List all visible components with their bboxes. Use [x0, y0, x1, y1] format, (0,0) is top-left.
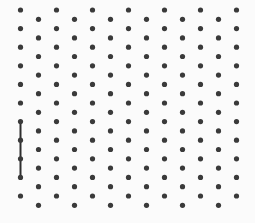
- grid-dot[interactable]: [72, 166, 77, 171]
- grid-dot[interactable]: [54, 138, 59, 143]
- grid-dot[interactable]: [198, 156, 203, 161]
- grid-dot[interactable]: [126, 156, 131, 161]
- grid-dot[interactable]: [126, 119, 131, 124]
- grid-dot[interactable]: [90, 119, 95, 124]
- grid-dot[interactable]: [126, 100, 131, 105]
- grid-dot[interactable]: [144, 110, 149, 115]
- grid-dot[interactable]: [90, 7, 95, 12]
- grid-dot[interactable]: [180, 17, 185, 22]
- grid-dot[interactable]: [144, 203, 149, 208]
- grid-dot[interactable]: [108, 54, 113, 59]
- grid-dot[interactable]: [198, 63, 203, 68]
- grid-dot[interactable]: [126, 63, 131, 68]
- grid-dot[interactable]: [216, 166, 221, 171]
- grid-dot[interactable]: [90, 26, 95, 31]
- grid-dot[interactable]: [36, 35, 41, 40]
- grid-dot[interactable]: [216, 73, 221, 78]
- grid-dot[interactable]: [108, 203, 113, 208]
- grid-dot[interactable]: [90, 100, 95, 105]
- grid-dot[interactable]: [198, 7, 203, 12]
- grid-dot[interactable]: [144, 17, 149, 22]
- grid-dot[interactable]: [72, 184, 77, 189]
- grid-dot[interactable]: [54, 63, 59, 68]
- grid-dot[interactable]: [126, 26, 131, 31]
- grid-dot[interactable]: [234, 175, 239, 180]
- grid-dot[interactable]: [108, 128, 113, 133]
- grid-dot[interactable]: [180, 166, 185, 171]
- grid-dot[interactable]: [162, 7, 167, 12]
- grid-dot[interactable]: [72, 73, 77, 78]
- grid-dot[interactable]: [198, 175, 203, 180]
- grid-dot[interactable]: [36, 166, 41, 171]
- grid-dot[interactable]: [90, 138, 95, 143]
- grid-dot[interactable]: [144, 54, 149, 59]
- grid-dot[interactable]: [216, 110, 221, 115]
- grid-dot[interactable]: [144, 184, 149, 189]
- grid-dot[interactable]: [90, 156, 95, 161]
- grid-dot[interactable]: [108, 110, 113, 115]
- grid-dot[interactable]: [180, 35, 185, 40]
- grid-dot[interactable]: [36, 73, 41, 78]
- grid-dot[interactable]: [180, 147, 185, 152]
- grid-dot[interactable]: [162, 138, 167, 143]
- grid-dot[interactable]: [72, 17, 77, 22]
- grid-dot[interactable]: [180, 128, 185, 133]
- grid-dot[interactable]: [234, 63, 239, 68]
- grid-dot[interactable]: [234, 45, 239, 50]
- grid-dot[interactable]: [198, 193, 203, 198]
- grid-dot[interactable]: [234, 7, 239, 12]
- grid-dot[interactable]: [18, 63, 23, 68]
- grid-dot[interactable]: [18, 26, 23, 31]
- grid-dot[interactable]: [72, 147, 77, 152]
- grid-dot[interactable]: [54, 175, 59, 180]
- grid-dot[interactable]: [18, 7, 23, 12]
- grid-dot[interactable]: [72, 110, 77, 115]
- grid-dot[interactable]: [18, 82, 23, 87]
- grid-dot[interactable]: [36, 91, 41, 96]
- grid-dot[interactable]: [54, 119, 59, 124]
- grid-dot[interactable]: [18, 119, 23, 124]
- grid-dot[interactable]: [54, 156, 59, 161]
- grid-dot[interactable]: [18, 100, 23, 105]
- grid-dot[interactable]: [144, 147, 149, 152]
- grid-dot[interactable]: [216, 54, 221, 59]
- grid-dot[interactable]: [90, 193, 95, 198]
- grid-dot[interactable]: [216, 128, 221, 133]
- grid-dot[interactable]: [54, 82, 59, 87]
- grid-dot[interactable]: [90, 63, 95, 68]
- grid-dot[interactable]: [90, 82, 95, 87]
- grid-dot[interactable]: [72, 54, 77, 59]
- grid-dot[interactable]: [162, 193, 167, 198]
- grid-dot[interactable]: [36, 128, 41, 133]
- grid-dot[interactable]: [18, 138, 23, 143]
- grid-dot[interactable]: [72, 203, 77, 208]
- grid-dot[interactable]: [234, 100, 239, 105]
- grid-dot[interactable]: [234, 26, 239, 31]
- grid-dot[interactable]: [180, 91, 185, 96]
- grid-dot[interactable]: [180, 73, 185, 78]
- grid-dot[interactable]: [108, 17, 113, 22]
- grid-dot[interactable]: [54, 7, 59, 12]
- grid-dot[interactable]: [234, 138, 239, 143]
- grid-dot[interactable]: [216, 203, 221, 208]
- grid-dot[interactable]: [234, 193, 239, 198]
- grid-dot[interactable]: [36, 110, 41, 115]
- grid-dot[interactable]: [72, 91, 77, 96]
- grid-dot[interactable]: [198, 100, 203, 105]
- grid-dot[interactable]: [18, 45, 23, 50]
- grid-dot[interactable]: [234, 156, 239, 161]
- grid-dot[interactable]: [144, 73, 149, 78]
- grid-dot[interactable]: [144, 35, 149, 40]
- grid-dot[interactable]: [54, 100, 59, 105]
- grid-dot[interactable]: [144, 166, 149, 171]
- grid-dot[interactable]: [36, 17, 41, 22]
- grid-dot[interactable]: [126, 7, 131, 12]
- grid-dot[interactable]: [36, 184, 41, 189]
- grid-dot[interactable]: [198, 119, 203, 124]
- grid-dot[interactable]: [108, 73, 113, 78]
- grid-dot[interactable]: [126, 193, 131, 198]
- grid-dot[interactable]: [36, 203, 41, 208]
- grid-dot[interactable]: [144, 128, 149, 133]
- grid-dot[interactable]: [36, 147, 41, 152]
- grid-dot[interactable]: [234, 82, 239, 87]
